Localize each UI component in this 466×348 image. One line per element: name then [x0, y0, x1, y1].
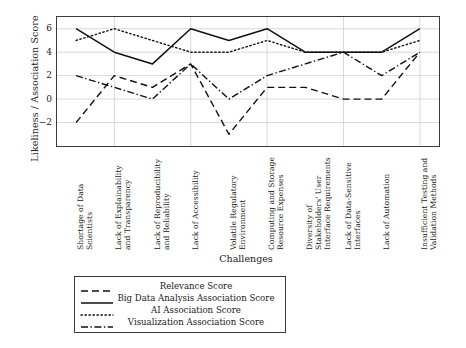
x-axis-tick-label: Lack of Automation [382, 150, 391, 250]
y-axis-tick-label: −2 [34, 118, 52, 127]
series-line [76, 52, 420, 134]
legend-item[interactable]: Big Data Analysis Association Score [80, 292, 280, 304]
x-axis-tick-label: Lack of Data-Sensitive Interfaces [344, 150, 362, 250]
x-axis-tick-label: Lack of Accessibility [191, 150, 200, 250]
x-axis-tick-label: Shortage of Data Scientists [76, 150, 94, 250]
y-axis-tick-label: 4 [34, 48, 52, 57]
x-axis-tick-label: Lack of Reproducibility and Reliability [153, 150, 171, 250]
legend-label: AI Association Score [114, 305, 280, 315]
legend-item[interactable]: AI Association Score [80, 304, 280, 316]
plot-lines [57, 17, 439, 146]
y-axis-tick-label: 6 [34, 24, 52, 33]
legend-line-sample [80, 293, 114, 303]
legend-line-sample [80, 317, 114, 327]
x-axis-tick-labels: Shortage of Data ScientistsLack of Expla… [56, 148, 440, 252]
y-axis-tick-label: 2 [34, 71, 52, 80]
y-axis-tick-labels: 6420−2 [30, 16, 52, 147]
x-axis-title: Challenges [46, 253, 446, 264]
x-axis-tick-label: Volatile Regulatory Environment [229, 150, 247, 250]
legend-line-sample [80, 281, 114, 291]
plot-area [56, 16, 440, 147]
series-line [76, 29, 420, 52]
y-axis-tick-label: 0 [34, 95, 52, 104]
x-axis-tick-label: Diversity of Stakeholders' User Interfac… [305, 150, 333, 250]
x-axis-tick-label: Computing and Storage Resource Expenses [267, 150, 285, 250]
x-axis-tick-label: Insufficient Testing and Validation Meth… [420, 150, 438, 250]
legend-item[interactable]: Visualization Association Score [80, 316, 280, 328]
legend-item[interactable]: Relevance Score [80, 280, 280, 292]
line-chart-figure: Likeliness / Association Score 6420−2 Sh… [0, 0, 466, 348]
legend-label: Big Data Analysis Association Score [114, 293, 280, 303]
x-axis-tick-label: Lack of Explainability and Transparency [114, 150, 132, 250]
chart-legend: Relevance ScoreBig Data Analysis Associa… [74, 276, 286, 333]
legend-label: Visualization Association Score [114, 317, 280, 327]
legend-label: Relevance Score [114, 281, 280, 291]
legend-line-sample [80, 305, 114, 315]
